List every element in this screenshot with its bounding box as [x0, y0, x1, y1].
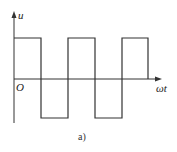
y-axis-arrow-icon: [12, 11, 17, 18]
x-axis-arrow-icon: [155, 77, 162, 82]
origin-label: O: [16, 81, 24, 93]
square-wave-diagram: u O ωt a): [0, 0, 177, 152]
y-axis-label: u: [18, 9, 24, 21]
x-axis-label: ωt: [156, 82, 168, 94]
figure-caption: a): [78, 131, 86, 143]
square-wave: [14, 38, 148, 118]
